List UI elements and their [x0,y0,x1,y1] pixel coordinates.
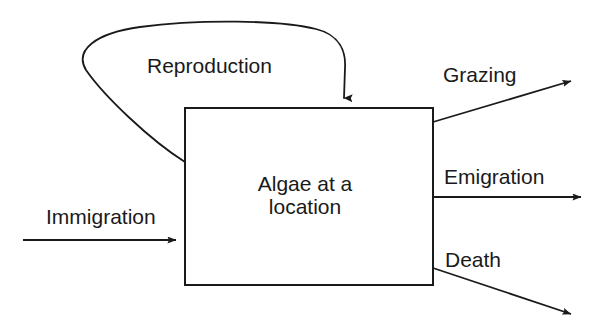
death-flow-arrow [433,268,571,314]
immigration-flow-label: Immigration [46,205,156,228]
emigration-flow-label: Emigration [444,165,544,188]
algae-stock-label-line-2: location [225,195,385,218]
death-flow-label: Death [445,248,501,271]
stock-and-flow-diagram: Reproduction Immigration Grazing Emigrat… [0,0,615,330]
grazing-flow-label: Grazing [443,63,517,86]
algae-stock-label-line-1: Algae at a [225,172,385,195]
grazing-flow-arrow [433,81,571,122]
reproduction-flow-label: Reproduction [147,54,272,77]
algae-stock-label: Algae at a location [225,172,385,218]
